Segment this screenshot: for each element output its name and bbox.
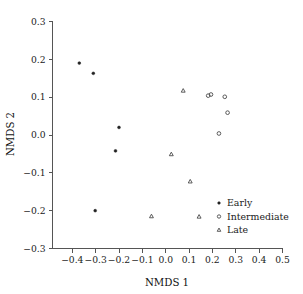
x-tick-label: 0.1 [182, 254, 197, 265]
x-axis-title: NMDS 1 [145, 277, 189, 288]
y-axis-ticks: −0.3−0.2−0.10.00.10.20.3 [23, 16, 52, 254]
series-intermediate [206, 93, 229, 136]
data-point-late [197, 215, 201, 219]
series-early [78, 62, 121, 212]
data-point-early [114, 149, 117, 152]
data-point-late [188, 179, 192, 183]
data-point-early [94, 209, 97, 212]
data-points [78, 62, 230, 218]
y-tick-label: 0.0 [31, 129, 46, 140]
x-tick-label: 0.5 [275, 254, 290, 265]
x-tick-label: 0.3 [228, 254, 243, 265]
x-tick-label: 0.4 [252, 254, 267, 265]
y-axis-title: NMDS 2 [5, 112, 16, 156]
y-tick-label: −0.2 [23, 205, 45, 216]
legend-marker-late [217, 228, 221, 231]
x-tick-label: −0.2 [108, 254, 130, 265]
legend: EarlyIntermediateLate [217, 197, 289, 235]
data-point-early [92, 72, 95, 75]
y-tick-label: 0.1 [31, 91, 46, 102]
y-tick-label: 0.3 [31, 16, 46, 27]
data-point-late [169, 152, 173, 156]
y-tick-label: −0.3 [23, 243, 45, 254]
data-point-intermediate [217, 132, 221, 136]
data-point-late [150, 214, 154, 218]
data-point-intermediate [223, 95, 227, 99]
x-tick-label: 0.0 [158, 254, 173, 265]
legend-label-intermediate: Intermediate [227, 211, 289, 222]
data-point-early [118, 126, 121, 129]
x-tick-label: −0.3 [84, 254, 106, 265]
nmds-ordination-figure: −0.4−0.3−0.2−0.10.00.10.20.30.40.5 −0.3−… [0, 0, 303, 294]
scatter-plot-canvas: −0.4−0.3−0.2−0.10.00.10.20.30.40.5 −0.3−… [0, 0, 303, 294]
legend-label-early: Early [227, 197, 253, 208]
legend-marker-intermediate [217, 215, 220, 218]
data-point-late [181, 89, 185, 93]
data-point-early [78, 62, 81, 65]
y-tick-label: 0.2 [31, 54, 46, 65]
x-axis-ticks: −0.4−0.3−0.2−0.10.00.10.20.30.40.5 [61, 249, 290, 265]
y-tick-label: −0.1 [23, 167, 45, 178]
series-late [150, 89, 202, 219]
x-tick-label: 0.2 [205, 254, 220, 265]
legend-label-late: Late [227, 224, 249, 235]
data-point-intermediate [226, 111, 230, 115]
legend-marker-early [218, 202, 221, 205]
x-tick-label: −0.1 [131, 254, 153, 265]
x-tick-label: −0.4 [61, 254, 83, 265]
